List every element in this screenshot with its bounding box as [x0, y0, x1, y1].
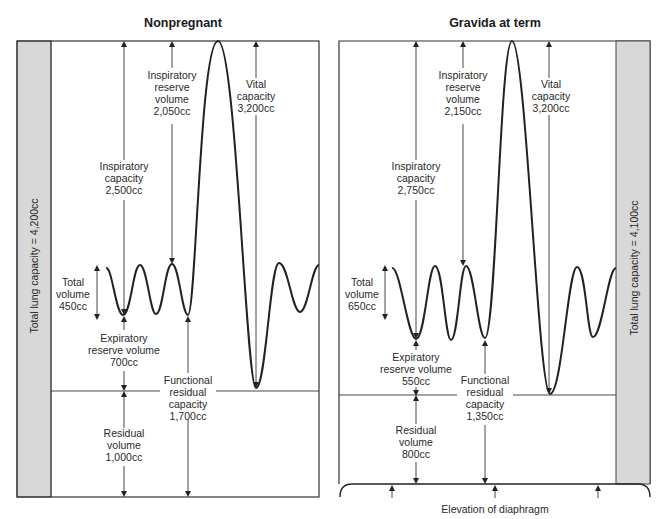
gravida-spirometry-curve	[392, 41, 616, 394]
svg-text:volume: volume	[446, 93, 480, 105]
functional-residual-capacity-label: Functional residual capacity 1,700cc	[164, 374, 212, 422]
residual-volume-label: Residual volume 800cc	[396, 424, 437, 460]
svg-text:Inspiratory: Inspiratory	[99, 160, 149, 172]
svg-text:2,050cc: 2,050cc	[154, 105, 191, 117]
lung-volumes-diagram: Nonpregnant Total lung capacity = 4,200c…	[0, 0, 667, 519]
expiratory-reserve-volume-label: Expiratory reserve volume 550cc	[380, 351, 452, 387]
svg-text:Functional: Functional	[164, 374, 212, 386]
nonpregnant-panel: Nonpregnant Total lung capacity = 4,200c…	[17, 16, 319, 497]
svg-text:Inspiratory: Inspiratory	[438, 69, 488, 81]
svg-text:1,350cc: 1,350cc	[467, 410, 504, 422]
svg-text:residual: residual	[170, 386, 207, 398]
inspiratory-capacity-label: Inspiratory capacity 2,750cc	[391, 160, 441, 196]
svg-text:reserve: reserve	[445, 81, 480, 93]
tidal-volume-label: Total volume 450cc	[56, 276, 90, 312]
svg-text:volume: volume	[56, 288, 90, 300]
svg-text:650cc: 650cc	[348, 300, 376, 312]
svg-text:1,000cc: 1,000cc	[106, 451, 143, 463]
svg-text:2,500cc: 2,500cc	[106, 184, 143, 196]
svg-text:Residual: Residual	[396, 424, 437, 436]
svg-text:Residual: Residual	[104, 427, 145, 439]
svg-text:capacity: capacity	[105, 172, 144, 184]
svg-text:volume: volume	[155, 93, 189, 105]
svg-text:capacity: capacity	[397, 172, 436, 184]
svg-text:450cc: 450cc	[59, 300, 87, 312]
svg-text:capacity: capacity	[237, 90, 276, 102]
svg-text:Inspiratory: Inspiratory	[147, 69, 197, 81]
residual-volume-label: Residual volume 1,000cc	[104, 427, 145, 463]
expiratory-reserve-volume-label: Expiratory reserve volume 700cc	[88, 332, 160, 368]
nonpregnant-title: Nonpregnant	[144, 16, 223, 30]
inspiratory-reserve-volume-label: Inspiratory reserve volume 2,050cc	[147, 69, 197, 117]
tidal-volume-label: Total volume 650cc	[345, 276, 379, 312]
svg-text:Inspiratory: Inspiratory	[391, 160, 441, 172]
svg-text:3,200cc: 3,200cc	[238, 102, 275, 114]
svg-text:700cc: 700cc	[110, 356, 138, 368]
svg-text:Functional: Functional	[461, 374, 509, 386]
total-lung-capacity-label: Total lung capacity = 4,200cc	[28, 198, 40, 333]
svg-text:Total: Total	[62, 276, 84, 288]
svg-text:2,150cc: 2,150cc	[445, 105, 482, 117]
svg-text:volume: volume	[399, 436, 433, 448]
svg-text:Vital: Vital	[246, 78, 266, 90]
svg-text:capacity: capacity	[532, 90, 571, 102]
vital-capacity-label: Vital capacity 3,200cc	[532, 78, 571, 114]
vital-capacity-label: Vital capacity 3,200cc	[237, 78, 276, 114]
diaphragm-label: Elevation of diaphragm	[441, 503, 549, 515]
functional-residual-capacity-label: Functional residual capacity 1,350cc	[461, 374, 509, 422]
svg-text:capacity: capacity	[169, 398, 208, 410]
svg-text:Vital: Vital	[541, 78, 561, 90]
svg-text:800cc: 800cc	[402, 448, 430, 460]
total-lung-capacity-label: Total lung capacity = 4,100cc	[628, 200, 640, 335]
svg-text:2,750cc: 2,750cc	[398, 184, 435, 196]
svg-text:Total: Total	[351, 276, 373, 288]
inspiratory-capacity-label: Inspiratory capacity 2,500cc	[99, 160, 149, 196]
svg-text:3,200cc: 3,200cc	[533, 102, 570, 114]
svg-text:550cc: 550cc	[402, 375, 430, 387]
inspiratory-reserve-volume-label: Inspiratory reserve volume 2,150cc	[438, 69, 488, 117]
svg-text:Expiratory: Expiratory	[100, 332, 148, 344]
svg-text:volume: volume	[345, 288, 379, 300]
gravida-panel: Gravida at term Total lung capacity = 4,…	[339, 16, 650, 515]
diaphragm-arrows	[392, 488, 598, 498]
svg-text:reserve volume: reserve volume	[88, 344, 160, 356]
svg-text:Expiratory: Expiratory	[392, 351, 440, 363]
gravida-title: Gravida at term	[449, 16, 541, 30]
svg-text:reserve: reserve	[154, 81, 189, 93]
svg-text:reserve volume: reserve volume	[380, 363, 452, 375]
svg-text:1,700cc: 1,700cc	[170, 410, 207, 422]
svg-text:capacity: capacity	[466, 398, 505, 410]
svg-text:residual: residual	[467, 386, 504, 398]
svg-text:volume: volume	[107, 439, 141, 451]
